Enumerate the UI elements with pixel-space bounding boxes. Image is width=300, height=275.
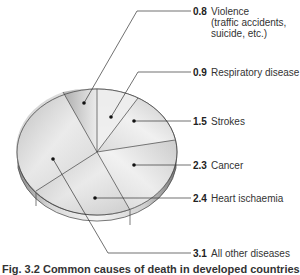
label-text-violence: Violence (traffic accidents, suicide, et…: [211, 6, 286, 39]
label-text-all-other: All other diseases: [211, 248, 290, 259]
label-text-respiratory: Respiratory disease: [211, 67, 299, 78]
label-value-strokes: 1.5: [193, 116, 207, 127]
label-value-all-other: 3.1: [193, 248, 207, 259]
label-text-heart: Heart ischaemia: [211, 193, 283, 204]
pie-top: [16, 89, 177, 215]
figure-caption: Fig. 3.2 Common causes of death in devel…: [2, 263, 300, 275]
label-value-violence: 0.8: [193, 6, 207, 17]
label-text-cancer: Cancer: [211, 160, 243, 171]
label-text-strokes: Strokes: [211, 116, 245, 127]
label-value-heart: 2.4: [193, 193, 207, 204]
label-value-cancer: 2.3: [193, 160, 207, 171]
label-value-respiratory: 0.9: [193, 67, 207, 78]
